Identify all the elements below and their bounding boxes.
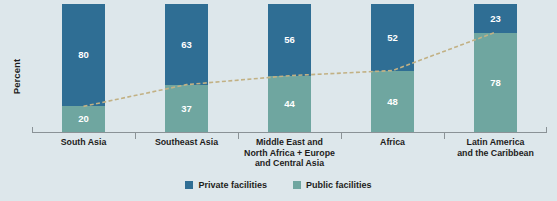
bar-segment-public: 20 [62,106,105,132]
plot-area: 80206337564452482378 [32,4,547,132]
category-label: Latin Americaand the Caribbean [444,137,547,158]
bar-segment-private: 23 [474,4,517,33]
bar-group: 2378 [474,4,517,132]
bar-segment-private: 80 [62,4,105,106]
bar-group: 8020 [62,4,105,132]
category-label: Southeast Asia [135,137,238,148]
legend-swatch-icon [185,181,193,189]
chart-legend: Private facilitiesPublic facilities [0,180,557,190]
bar-segment-public: 78 [474,33,517,132]
legend-item[interactable]: Private facilities [185,180,267,190]
x-axis-line [32,132,547,133]
bar-group: 5248 [371,4,414,132]
legend-label: Private facilities [198,180,267,190]
bar-segment-private: 56 [268,4,311,76]
y-axis-label: Percent [10,28,24,124]
bar-segment-public: 44 [268,76,311,132]
axis-tick [546,127,547,132]
bar-segment-private: 52 [371,4,414,71]
category-label: Africa [341,137,444,148]
bar-segment-public: 37 [165,85,208,132]
legend-label: Public facilities [306,180,372,190]
stacked-bar-chart: Percent 80206337564452482378 South AsiaS… [0,0,557,201]
y-axis-label-text: Percent [12,58,23,94]
legend-swatch-icon [293,181,301,189]
axis-tick [32,127,33,132]
bar-segment-public: 48 [371,71,414,132]
category-label: Middle East andNorth Africa + Europeand … [238,137,341,169]
legend-item[interactable]: Public facilities [293,180,372,190]
category-label: South Asia [32,137,135,148]
bar-group: 5644 [268,4,311,132]
bar-group: 6337 [165,4,208,132]
bar-segment-private: 63 [165,4,208,85]
